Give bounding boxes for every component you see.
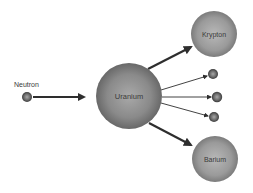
fission-diagram: Neutron Uranium Krypton Barium: [0, 0, 253, 193]
released-neutron-icon-2: [212, 92, 222, 102]
krypton-nucleus: Krypton: [191, 11, 237, 57]
released-neutron-icon-3: [209, 112, 219, 122]
krypton-arrow: [148, 47, 191, 69]
uranium-label: Uranium: [115, 92, 143, 101]
neutron-sphere-icon: [22, 92, 32, 102]
released-neutron-icon-1: [208, 69, 218, 79]
uranium-nucleus: Uranium: [96, 63, 162, 129]
krypton-label: Krypton: [202, 31, 226, 39]
neutron-label: Neutron: [14, 81, 39, 88]
incoming-neutron: Neutron: [14, 81, 39, 102]
barium-nucleus: Barium: [192, 136, 238, 182]
barium-label: Barium: [204, 156, 226, 163]
released-neutron-arrow-3: [161, 103, 208, 116]
released-neutron-arrow-1: [161, 76, 207, 90]
barium-arrow: [149, 123, 191, 145]
